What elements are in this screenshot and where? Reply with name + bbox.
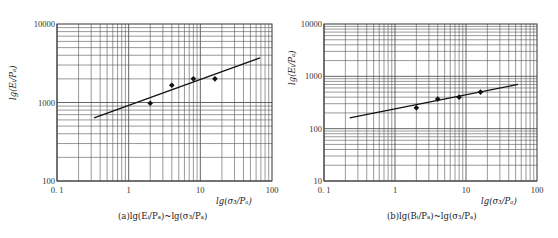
- x-axis-label-b: lg(σ₃/Pₐ): [481, 196, 517, 206]
- caption-b: (b)lg(Bᵢ/Pₐ)~lg(σ₃/Pₐ): [387, 211, 477, 221]
- chart-panel-b: 0. 111010010100100010000 lg(Eᵢ/Pₐ) lg(σ₃…: [279, 0, 558, 238]
- data-point-marker: [212, 76, 218, 82]
- y-axis-label-b: lg(Eᵢ/Pₐ): [287, 51, 297, 85]
- grid-a: [57, 24, 272, 181]
- x-tick-label: 1: [393, 185, 397, 195]
- y-axis-label-a: lg(Eᵢ/Pₐ): [8, 66, 18, 100]
- x-tick-label: 100: [531, 185, 544, 195]
- x-tick-label: 0. 1: [51, 185, 64, 195]
- y-tick-label: 1000: [305, 71, 322, 81]
- y-tick-label: 10000: [34, 19, 55, 29]
- y-tick-label: 1000: [38, 98, 55, 108]
- x-tick-label: 0. 1: [318, 185, 331, 195]
- x-tick-label: 100: [266, 185, 279, 195]
- x-tick-label: 1: [127, 185, 131, 195]
- data-point-marker: [169, 82, 175, 88]
- y-tick-label: 10: [314, 176, 323, 186]
- chart-panel-a: 0. 1110100100100010000 lg(Eᵢ/Pₐ) lg(σ₃/P…: [0, 0, 279, 238]
- y-tick-label: 10000: [301, 19, 322, 29]
- y-tick-label: 100: [42, 176, 55, 186]
- x-axis-label-a: lg(σ₃/Pₐ): [216, 196, 252, 206]
- x-tick-label: 10: [196, 185, 205, 195]
- data-point-marker: [414, 105, 420, 111]
- y-tick-label: 100: [309, 124, 322, 134]
- fitted-line: [94, 58, 260, 118]
- x-tick-label: 10: [462, 185, 471, 195]
- data-point-marker: [147, 100, 153, 106]
- caption-a: (a)lg(Eᵢ/Pₐ)~lg(σ₃/Pₐ): [118, 211, 207, 221]
